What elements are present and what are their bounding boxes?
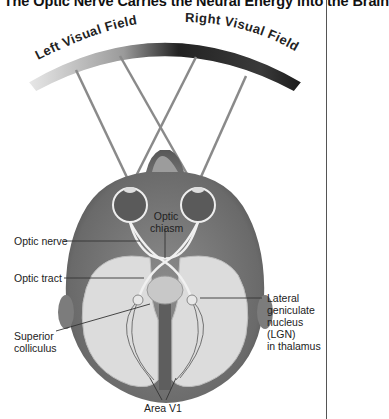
superior-colliculus-line1: Superior <box>14 330 57 342</box>
lgn-line2: geniculate <box>267 304 321 316</box>
optic-nerve-label: Optic nerve <box>14 235 68 247</box>
visual-field-arc <box>28 42 302 92</box>
optic-chiasm-line2: chiasm <box>150 222 182 234</box>
optic-chiasm-label: Optic chiasm <box>150 210 182 234</box>
lgn-line3: nucleus <box>267 316 321 328</box>
lgn-line5: in thalamus <box>267 340 321 352</box>
lgn-line4: (LGN) <box>267 328 321 340</box>
area-v1-label: Area V1 <box>144 402 182 414</box>
superior-colliculus-label: Superior colliculus <box>14 330 57 354</box>
optic-chiasm-line1: Optic <box>150 210 182 222</box>
optic-tract-label: Optic tract <box>14 272 62 284</box>
superior-colliculus-line2: colliculus <box>14 342 57 354</box>
lgn-line1: Lateral <box>267 292 321 304</box>
lgn-label: Lateral geniculate nucleus (LGN) in thal… <box>267 292 321 352</box>
